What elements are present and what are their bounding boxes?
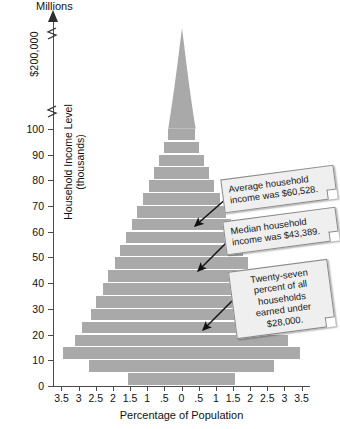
callout-fold-corner-icon (328, 230, 339, 241)
callout-under-28000[interactable]: Twenty-seven percent of all households e… (228, 259, 336, 340)
callout-fold-corner-icon (325, 316, 336, 327)
income-pyramid-chart: Millions $200,000 Household Income Level… (0, 0, 340, 429)
callout-fold-corner-icon (326, 188, 337, 199)
pyramid-spire (152, 28, 212, 129)
